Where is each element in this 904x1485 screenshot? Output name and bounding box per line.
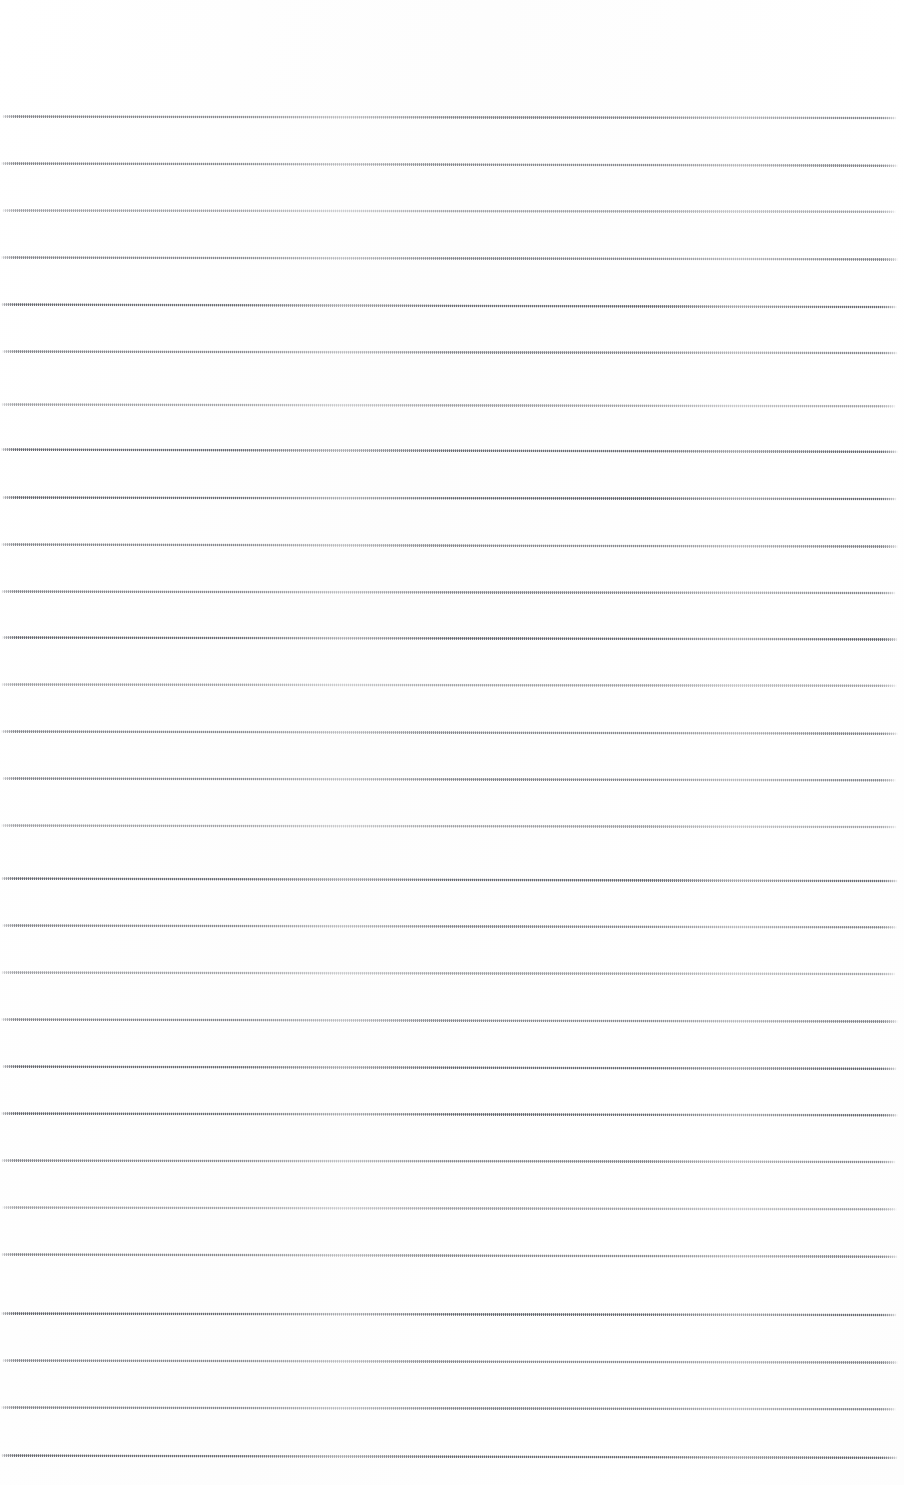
ruled-line xyxy=(2,496,897,500)
ruled-line-dither xyxy=(1,684,897,687)
ruled-line xyxy=(1,1112,898,1117)
ruled-line xyxy=(1,877,898,883)
ruled-line xyxy=(1,683,897,687)
ruled-line xyxy=(1,824,897,828)
ruled-line xyxy=(1,162,898,167)
ruled-line xyxy=(1,403,896,408)
ruled-line-dither xyxy=(2,116,897,120)
ruled-line xyxy=(2,115,897,120)
ruled-line-dither xyxy=(1,1407,896,1411)
scanned-page xyxy=(0,0,904,1485)
ruled-line-dither xyxy=(1,972,896,976)
ruled-line-dither xyxy=(2,351,898,355)
ruled-line-dither xyxy=(1,591,896,595)
ruled-line xyxy=(1,303,897,309)
ruled-line xyxy=(1,1454,898,1459)
ruled-line-dither xyxy=(2,778,896,782)
ruled-line xyxy=(2,924,897,929)
ruled-line xyxy=(1,971,896,976)
ruled-line xyxy=(1,256,898,261)
ruled-line xyxy=(2,209,896,213)
ruled-line-dither xyxy=(1,1313,897,1317)
ruled-line-dither xyxy=(1,1113,898,1117)
ruled-line xyxy=(1,1406,896,1411)
ruled-line-dither xyxy=(2,210,896,213)
ruled-line xyxy=(2,1065,897,1070)
ruled-line xyxy=(2,1206,897,1211)
ruled-line xyxy=(1,543,898,548)
ruled-line-layer xyxy=(0,0,904,1485)
ruled-line xyxy=(1,1018,898,1023)
ruled-line xyxy=(1,590,896,595)
ruled-line xyxy=(2,350,898,355)
ruled-line xyxy=(2,636,898,641)
ruled-line-dither xyxy=(1,1160,896,1163)
ruled-line xyxy=(1,1159,896,1163)
ruled-line xyxy=(1,448,898,453)
ruled-line xyxy=(2,1359,898,1364)
ruled-line xyxy=(1,730,898,735)
ruled-line-dither xyxy=(1,825,897,828)
ruled-line-dither xyxy=(2,497,897,500)
ruled-line xyxy=(1,1253,898,1258)
ruled-line xyxy=(2,777,896,782)
ruled-line-dither xyxy=(1,404,896,408)
ruled-line xyxy=(1,1312,897,1317)
